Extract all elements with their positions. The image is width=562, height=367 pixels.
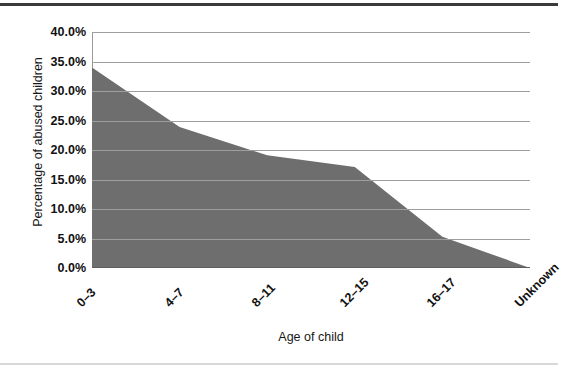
page-bottom-rule (0, 363, 558, 365)
x-tick-label: 12–15 (337, 275, 371, 309)
x-tick-label: 16–17 (424, 275, 458, 309)
x-tick-label: 0–3 (74, 285, 99, 310)
x-axis-title: Age of child (92, 330, 530, 344)
x-tick-label: 4–7 (162, 285, 187, 310)
x-tick-label: Unknown (512, 260, 562, 310)
x-tick-label: 8–11 (249, 281, 278, 310)
